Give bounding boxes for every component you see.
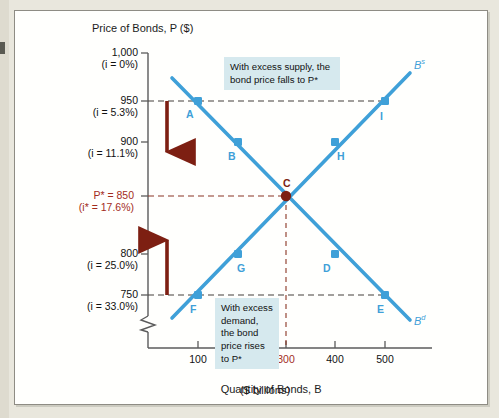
point-label-G: G [237, 262, 245, 274]
point-marker-E [381, 291, 389, 299]
y-tick-900-value: 900 [60, 135, 138, 147]
y-tick-950-value: 950 [60, 94, 138, 106]
x-tick-400: 400 [315, 353, 355, 365]
y-tick-950: 950 (i = 5.3%) [60, 94, 138, 118]
callout-excess-supply: With excess supply, the bond price falls… [224, 57, 340, 90]
point-label-D: D [323, 262, 331, 274]
y-tick-850-rate: (i* = 17.6%) [56, 201, 134, 213]
point-label-I: I [380, 110, 383, 122]
y-tick-750-value: 750 [60, 288, 138, 300]
demand-curve-label-sup: d [421, 313, 425, 322]
y-tick-800-value: 800 [60, 247, 138, 259]
point-label-A: A [186, 108, 194, 120]
point-marker-F [194, 291, 202, 299]
point-label-F: F [190, 303, 196, 315]
y-tick-1000-rate: (i = 0%) [60, 58, 138, 70]
point-label-H: H [337, 150, 345, 162]
point-marker-G [234, 250, 242, 258]
y-tick-900-rate: (i = 11.1%) [60, 147, 138, 159]
point-label-C: C [283, 177, 291, 189]
y-tick-750-rate: (i = 33.0%) [60, 300, 138, 312]
point-marker-C [281, 191, 291, 201]
x-tick-100: 100 [178, 353, 218, 365]
y-tick-950-rate: (i = 5.3%) [60, 106, 138, 118]
supply-curve-label: Bs [414, 57, 425, 71]
y-tick-1000-value: 1,000 [60, 46, 138, 58]
y-tick-800-rate: (i = 25.0%) [60, 259, 138, 271]
y-tick-800: 800 (i = 25.0%) [60, 247, 138, 271]
figure-page: Price of Bonds, P ($) 1,000 (i = 0%) 950… [0, 0, 499, 418]
x-tick-500: 500 [365, 353, 405, 365]
point-marker-H [331, 138, 339, 146]
callout-excess-demand: With excess demand, the bond price rises… [215, 298, 279, 369]
demand-curve-label: Bd [414, 313, 426, 327]
x-axis-subtitle: ($ billions) [205, 384, 325, 397]
y-axis-title: Price of Bonds, P ($) [92, 22, 193, 35]
y-tick-equilibrium-850: P* = 850 (i* = 17.6%) [56, 189, 134, 213]
supply-curve-label-sup: s [421, 57, 425, 66]
y-tick-850-value: P* = 850 [56, 189, 134, 201]
point-marker-D [331, 250, 339, 258]
y-tick-1000: 1,000 (i = 0%) [60, 46, 138, 70]
point-label-B: B [228, 150, 236, 162]
point-marker-B [234, 138, 242, 146]
y-tick-900: 900 (i = 11.1%) [60, 135, 138, 159]
point-marker-I [381, 97, 389, 105]
point-marker-A [194, 97, 202, 105]
point-label-E: E [377, 303, 384, 315]
y-tick-750: 750 (i = 33.0%) [60, 288, 138, 312]
